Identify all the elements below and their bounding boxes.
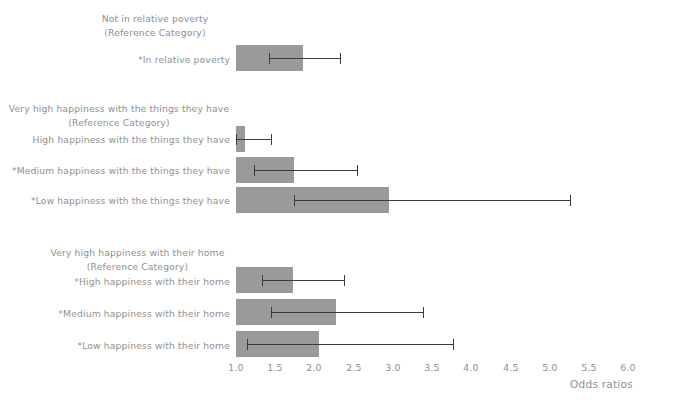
bar-medium-happiness-things-error-cap-high bbox=[357, 165, 358, 176]
xtick-2-0: 2.0 bbox=[299, 362, 329, 373]
bar-low-happiness-things-error-cap-high bbox=[570, 195, 571, 206]
bar-high-happiness-things-error-cap-high bbox=[271, 134, 272, 145]
bar-low-happiness-home-error-line bbox=[247, 344, 453, 345]
bar-high-happiness-things-error-cap-low bbox=[236, 134, 237, 145]
bar-in-relative-poverty-error-line bbox=[269, 58, 340, 59]
xtick-4-0: 4.0 bbox=[456, 362, 486, 373]
bar-low-happiness-home-error-cap-high bbox=[453, 339, 454, 350]
bar-medium-happiness-things-error-line bbox=[254, 170, 357, 171]
xtick-4-5: 4.5 bbox=[496, 362, 526, 373]
xtick-3-0: 3.0 bbox=[378, 362, 408, 373]
xtick-2-5: 2.5 bbox=[339, 362, 369, 373]
bar-high-happiness-home-error-cap-low bbox=[262, 275, 263, 286]
bar-in-relative-poverty-error-cap-low bbox=[269, 53, 270, 64]
xtick-1-0: 1.0 bbox=[221, 362, 251, 373]
odds-ratio-chart: Not in relative poverty (Reference Categ… bbox=[0, 0, 674, 407]
bar-in-relative-poverty-error-cap-high bbox=[340, 53, 341, 64]
bar-low-happiness-home-error-cap-low bbox=[247, 339, 248, 350]
x-axis-title: Odds ratios bbox=[570, 378, 633, 390]
bar-high-happiness-home-error-line bbox=[262, 280, 344, 281]
xtick-3-5: 3.5 bbox=[417, 362, 447, 373]
bar-medium-happiness-home-error-line bbox=[271, 312, 423, 313]
bar-high-happiness-home-error-cap-high bbox=[344, 275, 345, 286]
bar-medium-happiness-home-error-cap-high bbox=[423, 307, 424, 318]
bar-medium-happiness-home-error-cap-low bbox=[271, 307, 272, 318]
bar-medium-happiness-things-error-cap-low bbox=[254, 165, 255, 176]
bar-high-happiness-things-error-line bbox=[236, 139, 271, 140]
plot-area bbox=[0, 0, 674, 407]
xtick-5-0: 5.0 bbox=[535, 362, 565, 373]
xtick-6-0: 6.0 bbox=[613, 362, 643, 373]
xtick-5-5: 5.5 bbox=[574, 362, 604, 373]
bar-low-happiness-things-error-line bbox=[294, 200, 570, 201]
xtick-1-5: 1.5 bbox=[260, 362, 290, 373]
bar-low-happiness-things-error-cap-low bbox=[294, 195, 295, 206]
